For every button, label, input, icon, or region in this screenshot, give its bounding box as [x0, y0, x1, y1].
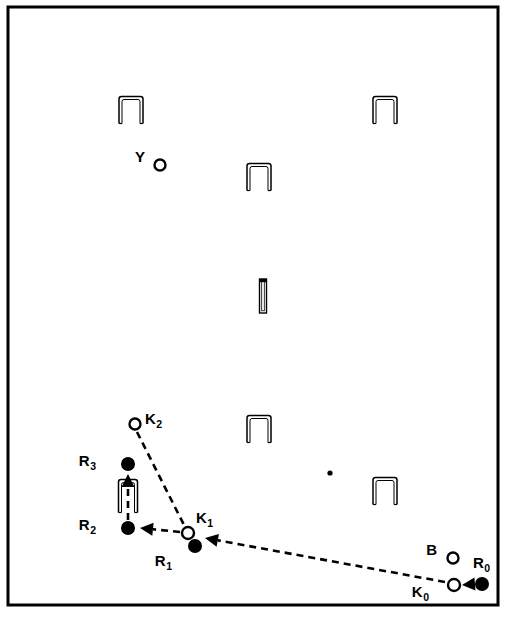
marker-r0[interactable] — [475, 577, 489, 591]
label-sub-k1: 1 — [207, 517, 213, 529]
label-sub-r0: 0 — [484, 562, 490, 574]
label-base-r0: R — [473, 554, 484, 571]
label-b: B — [426, 541, 437, 558]
label-base-k2: K — [145, 410, 156, 427]
marker-k1[interactable] — [182, 527, 194, 539]
unlabeled-point[interactable] — [327, 470, 332, 475]
label-sub-r3: 3 — [90, 460, 96, 472]
label-base-r1: R — [155, 552, 166, 569]
label-base-b: B — [426, 541, 437, 558]
figure-background — [0, 0, 512, 626]
figure-canvas: YK2R3R2K1R1BK0R0 — [0, 0, 512, 626]
label-base-r2: R — [79, 516, 90, 533]
label-base-k1: K — [196, 509, 207, 526]
figure-root: YK2R3R2K1R1BK0R0 — [0, 0, 512, 626]
marker-r1[interactable] — [188, 539, 202, 553]
marker-k0[interactable] — [448, 579, 460, 591]
label-base-r3: R — [79, 452, 90, 469]
marker-y[interactable] — [155, 160, 166, 171]
marker-r2[interactable] — [121, 521, 135, 535]
label-sub-r1: 1 — [166, 560, 172, 572]
marker-k2[interactable] — [130, 419, 141, 430]
label-sub-r2: 2 — [90, 524, 96, 536]
label-sub-k0: 0 — [423, 591, 429, 603]
marker-r3[interactable] — [121, 457, 135, 471]
marker-b[interactable] — [448, 553, 459, 564]
label-sub-k2: 2 — [156, 418, 162, 430]
label-y: Y — [135, 148, 145, 165]
label-base-k0: K — [412, 583, 423, 600]
label-base-y: Y — [135, 148, 145, 165]
